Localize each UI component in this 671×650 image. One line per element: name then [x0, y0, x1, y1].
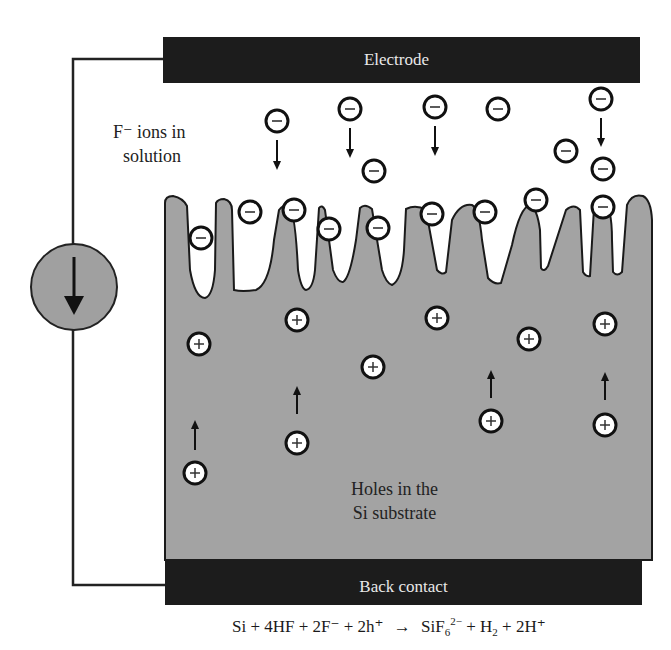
fluoride-ion-icon [474, 201, 496, 223]
fluoride-ion-icon [339, 98, 361, 120]
fluoride-ion-icon [487, 98, 509, 120]
diagram-canvas [0, 0, 671, 650]
equation-product-hplus: + 2H⁺ [498, 617, 546, 636]
substrate-label-line2: Si substrate [351, 501, 438, 525]
hole-icon [480, 410, 502, 432]
substrate-label: Holes in the Si substrate [351, 477, 438, 525]
superscript-charge: 2− [450, 615, 462, 627]
fluoride-ion-icon [239, 201, 261, 223]
fluoride-ion-icon [318, 218, 340, 240]
solution-label-line1: F⁻ ions in [113, 120, 186, 144]
fluoride-ion-icon [592, 196, 614, 218]
subscript-6: 6 [445, 626, 451, 638]
fluoride-ion-icon [590, 88, 612, 110]
fluoride-ion-icon [363, 160, 385, 182]
back-contact-label: Back contact [359, 577, 447, 596]
hole-icon [594, 414, 616, 436]
fluoride-ion-icon [424, 96, 446, 118]
reaction-arrow-icon: → [394, 617, 411, 636]
equation-product-sif: SiF [421, 617, 445, 636]
current-source-icon [31, 244, 117, 330]
equation-product-h: + H [462, 617, 492, 636]
solution-label-line2: solution [113, 144, 186, 168]
hole-icon [518, 328, 540, 350]
electrode-label: Electrode [364, 50, 429, 69]
substrate-label-line1: Holes in the [351, 477, 438, 501]
hole-icon [362, 356, 384, 378]
fluoride-ion-icon [190, 227, 212, 249]
electrode-bar: Electrode [163, 37, 640, 83]
solution-label: F⁻ ions in solution [113, 120, 186, 168]
hole-icon [286, 309, 308, 331]
fluoride-ion-icon [367, 217, 389, 239]
hole-icon [184, 462, 206, 484]
fluoride-ion-icon [525, 189, 547, 211]
hole-icon [594, 313, 616, 335]
fluoride-ion-icon [266, 110, 288, 132]
reaction-equation: Si + 4HF + 2F⁻ + 2h⁺ → SiF62− + H2 + 2H⁺ [232, 615, 546, 638]
hole-icon [426, 307, 448, 329]
fluoride-ion-icon [283, 199, 305, 221]
fluoride-ion-icon [555, 140, 577, 162]
back-contact-bar: Back contact [165, 559, 642, 605]
fluoride-ion-icon [421, 203, 443, 225]
equation-reactants: Si + 4HF + 2F⁻ + 2h⁺ [232, 617, 384, 636]
fluoride-ion-icon [592, 158, 614, 180]
hole-icon [188, 333, 210, 355]
hole-icon [286, 432, 308, 454]
